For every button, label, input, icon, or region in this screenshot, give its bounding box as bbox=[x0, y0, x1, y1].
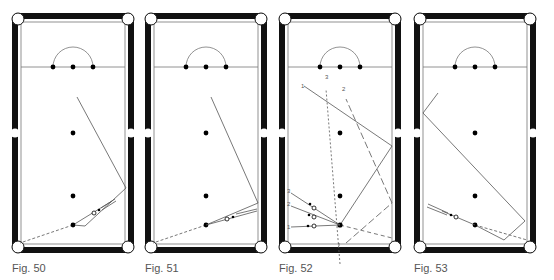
caption-fig-51: Fig. 51 bbox=[145, 262, 179, 274]
caption-fig-52: Fig. 52 bbox=[279, 262, 313, 274]
snooker-diagrams: 3 1 2 3 2 1 bbox=[0, 0, 554, 280]
figure-52: 3 1 2 3 2 1 bbox=[278, 13, 403, 264]
figure-50 bbox=[11, 13, 136, 253]
caption-fig-50: Fig. 50 bbox=[12, 262, 46, 274]
caption-fig-53: Fig. 53 bbox=[414, 262, 448, 274]
figure-53 bbox=[413, 13, 538, 253]
figure-51 bbox=[144, 13, 269, 253]
